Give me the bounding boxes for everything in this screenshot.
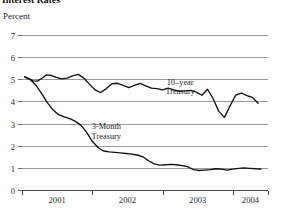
gridlines-group: [22, 36, 268, 191]
annotation-line-1: 10–year: [167, 78, 194, 87]
data-series-group: [25, 74, 261, 170]
y-tick-label-0: 0: [11, 186, 15, 196]
y-tick-label-5: 5: [11, 75, 15, 85]
annotation-line-2: Treasury: [165, 87, 195, 96]
y-tick-label-3: 3: [11, 120, 15, 130]
y-tick-labels-group: 01234567: [11, 31, 16, 196]
annotation-10-year-treasury: 10–yearTreasury: [165, 78, 195, 97]
chart-figure: Interest Rates Percent 01234567 20012002…: [0, 0, 284, 214]
y-tick-marks-group: [18, 36, 22, 191]
annotation-line-1: 3-Month: [92, 122, 122, 131]
series-line-10-year-treasury: [25, 74, 258, 117]
y-tick-label-4: 4: [11, 97, 16, 107]
y-tick-label-7: 7: [11, 31, 16, 41]
y-tick-label-2: 2: [11, 142, 15, 152]
x-tick-label-2004: 2004: [242, 195, 260, 205]
series-line-3-month-treasury: [25, 77, 261, 170]
y-tick-label-1: 1: [11, 164, 15, 174]
x-tick-labels-group: 2001200220032004: [49, 195, 260, 205]
x-tick-label-2002: 2002: [119, 195, 136, 205]
annotation-3-month-treasury: 3-MonthTreasury: [92, 122, 122, 141]
x-tick-label-2001: 2001: [49, 195, 66, 205]
x-tick-label-2003: 2003: [189, 195, 206, 205]
annotation-line-2: Treasury: [92, 132, 122, 141]
plot-area: 01234567 2001200220032004 10–yearTreasur…: [0, 0, 284, 214]
y-tick-label-6: 6: [11, 53, 16, 63]
